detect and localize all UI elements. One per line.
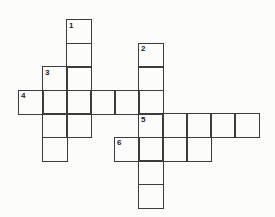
crossword-cell[interactable]: 3: [42, 66, 68, 91]
crossword-puzzle: 123456: [0, 0, 275, 217]
crossword-cell[interactable]: [114, 90, 140, 115]
crossword-cell[interactable]: [42, 90, 68, 115]
crossword-cell[interactable]: [234, 113, 260, 138]
crossword-cell[interactable]: [210, 113, 236, 138]
crossword-cell[interactable]: [66, 90, 92, 115]
cell-number: 6: [117, 138, 121, 147]
crossword-cell[interactable]: [66, 113, 92, 138]
crossword-cell[interactable]: 1: [66, 19, 92, 44]
crossword-cell[interactable]: [66, 43, 92, 68]
crossword-cell[interactable]: [90, 90, 116, 115]
cell-number: 5: [141, 115, 145, 124]
crossword-cell[interactable]: [186, 113, 212, 138]
crossword-grid: 123456: [0, 0, 275, 217]
crossword-cell[interactable]: 5: [138, 113, 164, 138]
crossword-cell[interactable]: [138, 66, 164, 91]
cell-number: 3: [45, 68, 49, 77]
crossword-cell[interactable]: [66, 66, 92, 91]
crossword-cell[interactable]: 4: [18, 90, 44, 115]
crossword-cell[interactable]: [42, 113, 68, 138]
crossword-cell[interactable]: [138, 90, 164, 115]
crossword-cell[interactable]: [138, 160, 164, 185]
crossword-cell[interactable]: [138, 184, 164, 209]
crossword-cell[interactable]: [186, 137, 212, 162]
crossword-cell[interactable]: [162, 113, 188, 138]
crossword-cell[interactable]: [42, 137, 68, 162]
crossword-cell[interactable]: [138, 137, 164, 162]
crossword-cell[interactable]: 2: [138, 43, 164, 68]
crossword-cell[interactable]: [162, 137, 188, 162]
cell-number: 2: [141, 44, 145, 53]
crossword-cell[interactable]: 6: [114, 137, 140, 162]
cell-number: 1: [69, 21, 73, 30]
cell-number: 4: [21, 91, 25, 100]
